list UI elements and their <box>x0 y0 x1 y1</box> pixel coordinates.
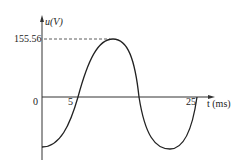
x-axis-label: t (ms) <box>207 99 231 109</box>
waveform-plot <box>0 0 241 168</box>
y-axis-label: u(V) <box>45 17 63 27</box>
tick-5-label: 5 <box>68 97 73 107</box>
peak-value-label: 155.56 <box>14 34 42 44</box>
sine-curve <box>42 39 197 149</box>
origin-label: 0 <box>33 97 38 107</box>
y-axis-arrow-icon <box>40 15 44 22</box>
tick-25-label: 25 <box>186 97 196 107</box>
